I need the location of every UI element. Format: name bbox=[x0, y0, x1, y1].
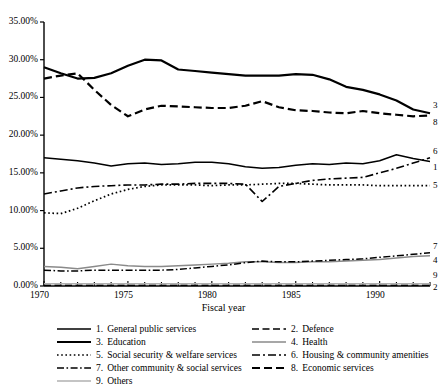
series-line-5 bbox=[44, 183, 430, 213]
legend-item-label: General public services bbox=[107, 324, 196, 334]
legend-line-swatch bbox=[57, 349, 91, 361]
plot-area bbox=[0, 0, 447, 320]
legend-item-number: 2. bbox=[291, 324, 298, 334]
series-end-label-2: 2 bbox=[433, 282, 438, 292]
series-end-label-6: 6 bbox=[433, 146, 438, 156]
x-axis-title: Fiscal year bbox=[0, 302, 447, 313]
legend-line-swatch bbox=[57, 336, 91, 348]
legend-column-left: 1.General public services3.Education5.So… bbox=[57, 322, 257, 386]
x-axis-tick-label: 1975 bbox=[114, 290, 133, 300]
legend-item-label: Social security & welfare services bbox=[107, 350, 237, 360]
legend-line-swatch bbox=[252, 323, 286, 335]
legend-item-number: 4. bbox=[291, 337, 298, 347]
x-axis-tick-label: 1985 bbox=[282, 290, 301, 300]
series-end-label-4: 4 bbox=[433, 255, 438, 265]
legend-item-label: Others bbox=[107, 376, 132, 386]
legend-item-2[interactable]: 2.Defence bbox=[252, 322, 447, 335]
legend-item-label: Defence bbox=[302, 324, 334, 334]
series-line-3 bbox=[44, 60, 430, 114]
y-axis-tick-label: 20.00% bbox=[0, 129, 38, 139]
series-end-label-5: 5 bbox=[433, 180, 438, 190]
legend-item-5[interactable]: 5.Social security & welfare services bbox=[57, 348, 257, 361]
series-end-label-8: 8 bbox=[433, 117, 438, 127]
legend-item-number: 3. bbox=[96, 337, 103, 347]
legend-item-number: 8. bbox=[291, 363, 298, 373]
legend-item-number: 1. bbox=[96, 324, 103, 334]
series-line-8 bbox=[44, 73, 430, 116]
legend-line-swatch bbox=[252, 336, 286, 348]
legend-line-swatch bbox=[57, 323, 91, 335]
legend-item-9[interactable]: 9.Others bbox=[57, 374, 257, 386]
legend-line-swatch bbox=[57, 375, 91, 386]
series-end-label-1: 1 bbox=[433, 162, 438, 172]
y-axis-tick-label: 5.00% bbox=[0, 242, 38, 252]
legend-item-label: Housing & community amenities bbox=[302, 350, 428, 360]
legend-item-1[interactable]: 1.General public services bbox=[57, 322, 257, 335]
legend-line-swatch bbox=[252, 362, 286, 374]
y-axis-tick-label: 0.00% bbox=[0, 280, 38, 290]
legend-item-6[interactable]: 6.Housing & community amenities bbox=[252, 348, 447, 361]
legend-item-number: 5. bbox=[96, 350, 103, 360]
legend-item-number: 6. bbox=[291, 350, 298, 360]
legend-item-label: Health bbox=[302, 337, 327, 347]
legend-item-8[interactable]: 8.Economic services bbox=[252, 361, 447, 374]
y-axis-tick-label: 15.00% bbox=[0, 167, 38, 177]
legend-item-3[interactable]: 3.Education bbox=[57, 335, 257, 348]
legend-line-swatch bbox=[57, 362, 91, 374]
y-axis-tick-label: 10.00% bbox=[0, 205, 38, 215]
legend-column-right: 2.Defence4.Health6.Housing & community a… bbox=[252, 322, 447, 374]
legend-item-label: Economic services bbox=[302, 363, 374, 373]
legend-item-number: 9. bbox=[96, 376, 103, 386]
legend-line-swatch bbox=[252, 349, 286, 361]
series-end-label-7: 7 bbox=[433, 241, 438, 251]
series-line-1 bbox=[44, 155, 430, 169]
x-axis-tick-label: 1970 bbox=[30, 290, 49, 300]
legend-item-label: Education bbox=[107, 337, 146, 347]
y-axis-tick-label: 30.00% bbox=[0, 54, 38, 64]
chart-legend: 1.General public services3.Education5.So… bbox=[0, 322, 447, 386]
series-end-label-9: 9 bbox=[433, 270, 438, 280]
y-axis-tick-label: 25.00% bbox=[0, 91, 38, 101]
legend-item-label: Other community & social services bbox=[107, 363, 242, 373]
legend-item-number: 7. bbox=[96, 363, 103, 373]
legend-item-4[interactable]: 4.Health bbox=[252, 335, 447, 348]
line-chart: 0.00%5.00%10.00%15.00%20.00%25.00%30.00%… bbox=[0, 0, 447, 386]
x-axis-tick-label: 1990 bbox=[366, 290, 385, 300]
legend-item-7[interactable]: 7.Other community & social services bbox=[57, 361, 257, 374]
y-axis-tick-label: 35.00% bbox=[0, 16, 38, 26]
series-line-7 bbox=[44, 253, 430, 271]
x-axis-tick-label: 1980 bbox=[198, 290, 217, 300]
series-end-label-3: 3 bbox=[433, 100, 438, 110]
